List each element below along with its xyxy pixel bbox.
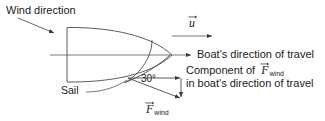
component-label-line1: Component of Fwind [186, 64, 284, 76]
component-label-line2: in boat's direction of travel [186, 78, 313, 89]
f-wind-vector-glyph: Fwind [261, 64, 284, 76]
f-letter: F [146, 102, 153, 116]
sail-leader-line [86, 80, 127, 92]
wind-direction-arrow [18, 18, 54, 33]
velocity-vector-symbol: u [189, 17, 195, 29]
boat-direction-label: Boat's direction of travel [197, 49, 314, 60]
f-wind-vector-glyph: Fwind [146, 103, 169, 115]
f-wind-bottom-label: Fwind [146, 103, 169, 115]
f-subscript: wind [154, 109, 168, 116]
component-prefix-text: Component of [186, 64, 255, 76]
wind-direction-label: Wind direction [6, 5, 76, 16]
angle-label: 30° [141, 74, 156, 84]
u-letter: u [189, 16, 195, 30]
f-letter: F [261, 63, 268, 77]
u-vector-glyph: u [189, 17, 195, 29]
hull-upper-curve [67, 27, 172, 55]
f-subscript: wind [270, 70, 284, 77]
sailboat-force-diagram: Wind direction u Boat's direction of tra… [0, 0, 325, 121]
sail-label: Sail [61, 85, 79, 96]
